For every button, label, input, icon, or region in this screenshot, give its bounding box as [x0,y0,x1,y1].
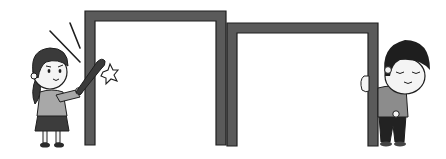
right-door-frame [227,23,378,146]
scene-canvas [0,0,446,159]
illustration-scene [0,0,446,159]
